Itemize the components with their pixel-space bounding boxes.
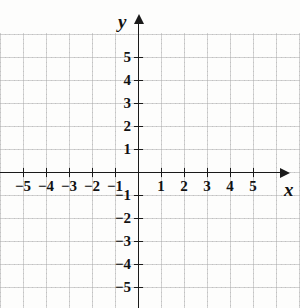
y-axis-tick bbox=[134, 80, 143, 81]
x-axis-label: x bbox=[284, 180, 294, 199]
y-axis-tick bbox=[134, 241, 143, 242]
x-axis-tick bbox=[253, 168, 254, 177]
y-axis-tick-label: 3 bbox=[0, 96, 131, 111]
x-axis-tick bbox=[207, 168, 208, 177]
y-axis-tick bbox=[134, 287, 143, 288]
x-axis-tick bbox=[161, 168, 162, 177]
x-axis-tick bbox=[23, 168, 24, 177]
y-axis-tick bbox=[134, 149, 143, 150]
y-axis-tick-label: 4 bbox=[0, 73, 131, 88]
y-axis-arrowhead-icon bbox=[134, 14, 144, 24]
x-axis-tick-label: 2 bbox=[180, 179, 188, 194]
x-axis-arrowhead-icon bbox=[280, 168, 290, 178]
coordinate-plane-figure: y −5−4−3−2−11234554321−1−2−3−4−5 x y bbox=[0, 0, 300, 308]
y-axis-tick-label: 2 bbox=[0, 119, 131, 134]
y-axis-tick bbox=[134, 264, 143, 265]
y-axis-label: y bbox=[118, 12, 126, 31]
x-axis-tick bbox=[115, 168, 116, 177]
x-axis-tick-label: 4 bbox=[226, 179, 234, 194]
y-axis-tick-label: −2 bbox=[0, 211, 131, 226]
y-axis-tick-label: −1 bbox=[0, 188, 131, 203]
x-axis-tick bbox=[92, 168, 93, 177]
y-axis-tick bbox=[134, 57, 143, 58]
x-axis-tick bbox=[230, 168, 231, 177]
x-axis-tick-label: 1 bbox=[157, 179, 165, 194]
y-axis-tick-label: −5 bbox=[0, 280, 131, 295]
x-axis-tick bbox=[46, 168, 47, 177]
x-axis-tick-label: 3 bbox=[203, 179, 211, 194]
y-axis-tick bbox=[134, 103, 143, 104]
clipped-glyph-artifact: y bbox=[130, 0, 138, 1]
y-axis-tick-label: 5 bbox=[0, 50, 131, 65]
x-axis-tick bbox=[69, 168, 70, 177]
x-axis-tick-label: 5 bbox=[249, 179, 257, 194]
x-axis-line bbox=[0, 172, 282, 173]
y-axis-tick bbox=[134, 218, 143, 219]
y-axis-tick-label: −3 bbox=[0, 234, 131, 249]
y-axis-tick bbox=[134, 195, 143, 196]
y-axis-line bbox=[138, 22, 139, 308]
y-axis-tick-label: 1 bbox=[0, 142, 131, 157]
y-axis-tick bbox=[134, 126, 143, 127]
x-axis-tick bbox=[184, 168, 185, 177]
y-axis-tick-label: −4 bbox=[0, 257, 131, 272]
